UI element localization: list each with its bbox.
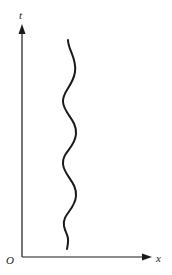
t-axis-label: t [19,10,22,21]
t-axis-arrowhead-icon [19,24,26,34]
x-axis [22,254,152,261]
worldline-curve [63,40,76,249]
spacetime-diagram: t O x [0,0,172,275]
diagram-canvas [0,0,172,275]
origin-label: O [6,255,14,266]
t-axis [19,24,26,257]
x-axis-arrowhead-icon [142,254,152,261]
x-axis-label: x [156,253,161,264]
